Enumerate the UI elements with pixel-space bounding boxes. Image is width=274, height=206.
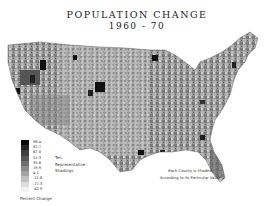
legend-swatch bbox=[21, 187, 29, 192]
legend-caption: Percent Change bbox=[20, 196, 52, 201]
legend-note-line: Shadings bbox=[55, 168, 85, 175]
map-footnote-line2: According to its Particular Value bbox=[150, 175, 230, 180]
map-subtitle-years: 1960 - 70 bbox=[0, 21, 274, 31]
map-title: POPULATION CHANGE bbox=[0, 9, 274, 20]
legend-value: -42.9 bbox=[33, 187, 42, 192]
legend-row: -42.9 bbox=[21, 187, 42, 192]
legend-note: Ten Representative Shadings bbox=[55, 155, 85, 175]
legend: 98.4 82.7 67.0 51.3 35.6 19.9 4.1 -11.6 … bbox=[21, 140, 42, 192]
map-footnote-line1: Each County is Shaded bbox=[150, 168, 230, 173]
